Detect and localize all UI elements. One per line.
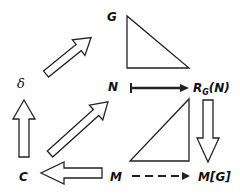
commutative-diagram: G δ N RG(N) C M M[G] [0,0,240,194]
arrow-m-to-c [41,162,102,184]
lower-triangle [130,99,189,161]
node-m: M [110,171,122,183]
arrow-n-to-rg [131,83,189,93]
arrow-m-to-mg-dashed [132,172,190,180]
node-c: C [19,171,28,183]
arrow-c-to-delta [13,100,35,157]
arrow-delta-to-g [40,30,98,82]
node-r-label: R [193,81,202,95]
node-n: N [108,81,118,93]
node-m-g: M[G] [198,171,231,183]
node-delta: δ [17,77,25,90]
node-r-subscript: G [202,88,209,97]
node-rg-n: RG(N) [193,82,230,97]
node-r-arg: (N) [209,81,230,95]
node-g: G [107,11,117,23]
upper-triangle [127,16,189,68]
node-n-label: N [108,80,118,94]
arrow-rg-to-mg [197,100,219,162]
arrow-c-to-n [43,94,114,161]
